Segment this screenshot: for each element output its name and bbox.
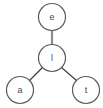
edge-l-t xyxy=(62,68,77,81)
node-a[interactable]: a xyxy=(7,77,34,104)
node-l-label: l xyxy=(51,53,53,63)
node-e-label: e xyxy=(49,12,54,22)
node-e[interactable]: e xyxy=(39,4,66,31)
node-t[interactable]: t xyxy=(73,77,100,104)
node-l[interactable]: l xyxy=(39,45,66,72)
graph-canvas: e l a t xyxy=(0,0,103,108)
node-a-label: a xyxy=(17,85,22,95)
edge-l-a xyxy=(30,68,43,81)
tree-diagram: e l a t xyxy=(0,0,103,108)
